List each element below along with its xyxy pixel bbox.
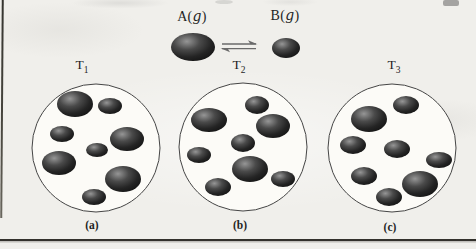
molecule-b-sphere (393, 96, 419, 114)
species-b-label: B(g) (261, 7, 309, 24)
molecule-b-sphere (351, 167, 377, 185)
molecule-a-sphere (256, 114, 290, 138)
molecule-b-sphere (340, 136, 366, 154)
molecule-a-sphere (191, 108, 227, 132)
molecule-b-sphere (426, 152, 452, 168)
panel-caption-a: (a) (70, 219, 114, 231)
legend-sphere-a (171, 33, 215, 61)
molecule-b-sphere (187, 147, 211, 163)
temperature-label-2: T2 (217, 57, 261, 73)
molecule-b-sphere (384, 140, 410, 158)
molecule-a-sphere (57, 91, 93, 117)
molecule-a-sphere (402, 171, 438, 197)
molecule-b-sphere (245, 96, 269, 114)
molecule-a-sphere (232, 156, 268, 182)
temperature-label-3: T3 (372, 57, 416, 73)
legend-sphere-b (272, 38, 300, 58)
species-a-label: A(g) (168, 8, 216, 25)
equilibrium-arrows-icon (221, 40, 258, 52)
molecule-a-sphere (42, 151, 76, 175)
figure-page: A(g) B(g) T1 T2 T3 (a) (b) (c) (0, 0, 476, 249)
molecule-a-sphere (351, 106, 387, 132)
molecule-a-sphere (105, 166, 141, 192)
temperature-label-1: T1 (60, 57, 104, 73)
molecule-b-sphere (98, 98, 122, 114)
molecule-b-sphere (271, 171, 295, 187)
molecule-b-sphere (205, 178, 231, 196)
molecule-b-sphere (50, 126, 74, 142)
molecule-a-sphere (110, 127, 144, 151)
molecule-b-sphere (376, 188, 402, 206)
molecule-b-sphere (86, 143, 108, 157)
molecule-b-sphere (82, 189, 106, 205)
molecule-b-sphere (231, 134, 255, 152)
panel-caption-c: (c) (368, 221, 412, 233)
panel-caption-b: (b) (218, 219, 262, 231)
bottom-rule (0, 239, 476, 241)
figure-canvas (0, 0, 476, 249)
